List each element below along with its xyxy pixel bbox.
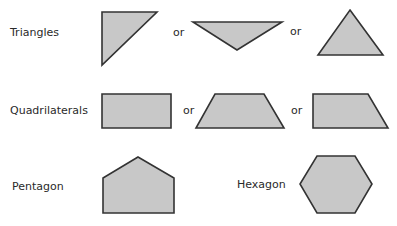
isosceles-triangle-shape [318, 10, 383, 55]
pentagon-shape [103, 157, 174, 213]
hexagon-shape [300, 156, 372, 213]
right-triangle-shape [102, 12, 157, 65]
right-trapezoid-shape [313, 94, 388, 128]
rectangle-shape [102, 94, 171, 128]
shapes-canvas [0, 0, 397, 226]
inverted-obtuse-triangle-shape [193, 22, 282, 50]
isosceles-trapezoid-shape [196, 94, 284, 128]
